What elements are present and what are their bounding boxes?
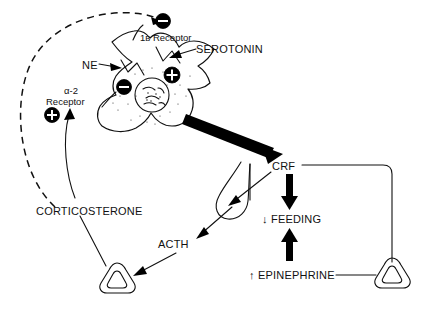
crf-label: CRF [272, 160, 295, 172]
alpha2-receptor-label-line2: Receptor [46, 96, 85, 107]
pituitary-gland [216, 162, 250, 219]
sign-plus-serotonin [164, 67, 180, 83]
connection-neuron-to-crf [182, 114, 283, 164]
connection-adrenal-left-to-corticosterone [80, 216, 106, 266]
sign-plus-alpha2 [45, 108, 60, 123]
connection-pituitary-to-acth [196, 207, 232, 239]
connection-epinephrine-to-feeding [281, 228, 298, 261]
adrenal-gland-right [375, 258, 410, 288]
sign-minus-1b-receptor [156, 14, 171, 29]
feeding-label: ↓ FEEDING [262, 213, 321, 225]
diagram-canvas: 1ʙ Receptor SEROTONIN NE α-2 Receptor CO… [0, 0, 427, 312]
receptor-1b-label: 1ʙ Receptor [140, 32, 192, 43]
epinephrine-label: ↑ EPINEPHRINE [249, 269, 335, 281]
acth-label: ACTH [158, 238, 189, 250]
alpha2-receptor-label-line1: α-2 [64, 85, 78, 96]
connection-crf-to-feeding [281, 174, 298, 210]
ne-label: NE [82, 59, 98, 71]
corticosterone-label: CORTICOSTERONE [36, 205, 143, 217]
diagram-svg: 1ʙ Receptor SEROTONIN NE α-2 Receptor CO… [0, 0, 427, 312]
serotonin-label: SEROTONIN [196, 43, 263, 55]
connection-acth-to-adrenal-left [133, 253, 176, 276]
adrenal-gland-left [100, 263, 135, 293]
sign-minus-ne [117, 80, 132, 95]
connection-corticosterone-to-alpha2 [64, 108, 75, 198]
